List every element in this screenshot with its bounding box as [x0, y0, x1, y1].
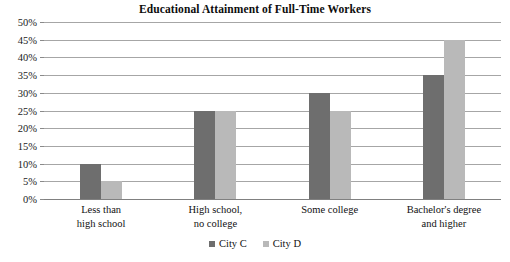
y-axis-tick-label: 20%	[18, 123, 37, 134]
bar	[330, 111, 351, 200]
legend-swatch-icon	[209, 241, 215, 247]
y-axis-tick-label: 15%	[18, 140, 37, 151]
x-axis-category-label: Bachelor's degree and higher	[387, 203, 501, 230]
gridline	[44, 22, 501, 23]
x-axis-category-label: Less than high school	[44, 203, 158, 230]
legend-entry[interactable]: City D	[263, 238, 301, 249]
legend-entry[interactable]: City C	[209, 238, 247, 249]
y-axis-tick	[40, 40, 44, 41]
y-axis-tick	[40, 199, 44, 200]
bar	[101, 181, 122, 199]
x-axis-category-label: Some college	[273, 203, 387, 217]
gridline	[44, 40, 501, 41]
y-axis-tick	[40, 164, 44, 165]
gridline	[44, 57, 501, 58]
legend-label: City D	[273, 238, 301, 249]
y-axis-tick-label: 25%	[18, 105, 37, 116]
x-axis-category-label: High school, no college	[158, 203, 272, 230]
y-axis-tick	[40, 111, 44, 112]
y-axis-tick-label: 40%	[18, 52, 37, 63]
y-axis-tick	[40, 22, 44, 23]
bar	[215, 111, 236, 200]
bar	[423, 75, 444, 199]
chart-legend: City CCity D	[0, 238, 510, 249]
y-axis-tick-label: 50%	[18, 17, 37, 28]
y-axis-tick	[40, 75, 44, 76]
legend-swatch-icon	[263, 241, 269, 247]
y-axis-tick-label: 30%	[18, 87, 37, 98]
y-axis-tick	[40, 128, 44, 129]
chart-title: Educational Attainment of Full-Time Work…	[0, 3, 510, 15]
y-axis-tick-label: 10%	[18, 158, 37, 169]
plot-area: 0%5%10%15%20%25%30%35%40%45%50%	[44, 22, 501, 199]
y-axis-tick	[40, 146, 44, 147]
y-axis-tick	[40, 93, 44, 94]
y-axis-tick	[40, 57, 44, 58]
y-axis-tick-label: 35%	[18, 70, 37, 81]
legend-label: City C	[219, 238, 247, 249]
bar	[309, 93, 330, 199]
y-axis-tick-label: 45%	[18, 34, 37, 45]
bar	[444, 40, 465, 199]
y-axis-tick-label: 5%	[23, 176, 37, 187]
bar	[194, 111, 215, 200]
y-axis-tick-label: 0%	[23, 194, 37, 205]
bar-chart: Educational Attainment of Full-Time Work…	[0, 0, 510, 262]
bar	[80, 164, 101, 199]
axis-baseline	[44, 199, 501, 200]
y-axis-tick	[40, 181, 44, 182]
